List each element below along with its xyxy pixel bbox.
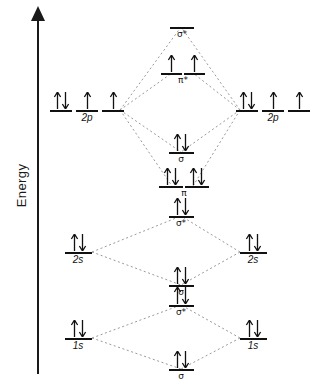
level-line-left-2p-c: [102, 110, 124, 112]
label-mo-sigma-star-2s: σ*: [165, 219, 197, 228]
label-left-2p: 2p: [71, 113, 103, 123]
correlation-lines: [0, 0, 316, 388]
electron-down-arrow: [253, 234, 262, 251]
electron-down-arrow: [253, 320, 262, 337]
label-mo-sigma-2p: σ: [165, 155, 197, 164]
electron-up-arrow: [167, 55, 176, 72]
level-line-right-2p-c: [288, 110, 310, 112]
electron-up-arrow: [190, 55, 199, 72]
electron-down-arrow: [197, 168, 206, 185]
electron-down-arrow: [181, 351, 190, 368]
electron-up-arrow: [295, 92, 304, 109]
label-left-2s: 2s: [62, 255, 94, 265]
electron-down-arrow: [181, 287, 190, 304]
level-line-left-2p-a: [50, 110, 72, 112]
electron-down-arrow: [247, 92, 256, 109]
electron-down-arrow: [181, 198, 190, 215]
label-mo-sigma-1s: σ: [165, 372, 197, 381]
level-line-mo-pi-2p-b: [185, 186, 209, 188]
label-mo-sigma-star-1s: σ*: [165, 308, 197, 317]
label-mo-pi-2p: π: [168, 189, 200, 198]
mo-energy-diagram: Energy σ*: [0, 0, 316, 388]
label-right-2p: 2p: [257, 113, 289, 123]
electron-down-arrow: [171, 168, 180, 185]
level-line-mo-pi-2p-a: [159, 186, 183, 188]
electron-up-arrow: [109, 92, 118, 109]
label-right-1s: 1s: [237, 341, 269, 351]
label-left-1s: 1s: [62, 341, 94, 351]
label-mo-pi-star-2p: π*: [167, 76, 199, 85]
electron-down-arrow: [78, 320, 87, 337]
electron-up-arrow: [269, 92, 278, 109]
label-mo-sigma-star-2p: σ*: [166, 30, 198, 39]
electron-down-arrow: [181, 267, 190, 284]
electron-down-arrow: [61, 92, 70, 109]
electron-down-arrow: [181, 134, 190, 151]
electron-down-arrow: [78, 234, 87, 251]
electron-up-arrow: [83, 92, 92, 109]
level-line-right-2p-a: [236, 110, 258, 112]
label-right-2s: 2s: [237, 255, 269, 265]
